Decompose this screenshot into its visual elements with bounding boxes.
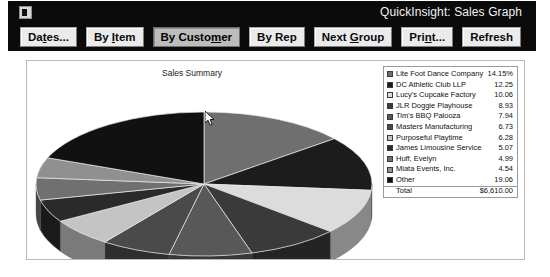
- legend-total-row: Total$6,610.00: [384, 186, 517, 197]
- legend-value: 19.06: [494, 175, 514, 186]
- legend-value: 6.28: [498, 133, 514, 144]
- toolbar-button-by-rep[interactable]: By Rep: [249, 27, 305, 47]
- quickinsight-window: QuickInsight: Sales Graph Dates...By Ite…: [0, 0, 550, 277]
- toolbar: Dates...By ItemBy CustomerBy RepNext Gro…: [8, 23, 536, 51]
- legend-swatch-icon: [387, 177, 393, 183]
- legend-value: 8.93: [498, 101, 514, 112]
- legend-swatch-icon: [387, 103, 393, 109]
- toolbar-button-label: By Item: [94, 31, 136, 43]
- toolbar-button-refresh[interactable]: Refresh: [462, 27, 521, 47]
- legend-swatch-icon: [387, 71, 393, 77]
- legend-row: Lucy's Cupcake Factory10.06: [384, 90, 517, 101]
- legend-label: DC Athletic Club LLP: [396, 80, 494, 91]
- chart-title: Sales Summary: [27, 68, 357, 78]
- legend-swatch-icon: [387, 124, 393, 130]
- chart-legend: Lite Foot Dance Company14.15%DC Athletic…: [383, 66, 518, 198]
- legend-swatch-icon: [387, 135, 393, 141]
- legend-value: 12.25: [494, 80, 514, 91]
- toolbar-button-label: Dates...: [28, 31, 69, 43]
- legend-swatch-icon: [387, 82, 393, 88]
- legend-value: 4.54: [498, 164, 514, 175]
- toolbar-button-label: By Rep: [257, 31, 297, 43]
- legend-label: Miata Events, Inc.: [396, 164, 498, 175]
- legend-swatch-icon: [387, 167, 393, 173]
- toolbar-button-next-group[interactable]: Next Group: [314, 27, 393, 47]
- legend-value: 4.99: [498, 154, 514, 165]
- legend-label: Huff, Evelyn: [396, 154, 498, 165]
- legend-label: Lucy's Cupcake Factory: [396, 90, 494, 101]
- legend-swatch-icon: [387, 114, 393, 120]
- toolbar-button-by-item[interactable]: By Item: [86, 27, 144, 47]
- legend-row: Tim's BBQ Palooza7.94: [384, 111, 517, 122]
- pie-chart-svg: [31, 89, 377, 260]
- toolbar-button-label: Refresh: [470, 31, 513, 43]
- toolbar-button-by-customer[interactable]: By Customer: [153, 27, 241, 47]
- legend-row: Purposeful Playtime6.28: [384, 133, 517, 144]
- legend-row: Lite Foot Dance Company14.15%: [384, 69, 517, 80]
- toolbar-button-dates[interactable]: Dates...: [20, 27, 77, 47]
- legend-label: Lite Foot Dance Company: [396, 69, 488, 80]
- legend-value: 7.94: [498, 111, 514, 122]
- legend-label: Masters Manufacturing: [396, 122, 498, 133]
- legend-value: 5.07: [498, 143, 514, 154]
- legend-total-label: Total: [387, 186, 480, 197]
- window-title: QuickInsight: Sales Graph: [380, 5, 522, 19]
- legend-label: Other: [396, 175, 494, 186]
- legend-value: 6.73: [498, 122, 514, 133]
- legend-swatch-icon: [387, 156, 393, 162]
- legend-value: 10.06: [494, 90, 514, 101]
- toolbar-button-label: Print...: [409, 31, 445, 43]
- legend-total-value: $6,610.00: [480, 186, 514, 197]
- window-icon[interactable]: [19, 6, 32, 19]
- legend-swatch-icon: [387, 145, 393, 151]
- legend-label: Purposeful Playtime: [396, 133, 498, 144]
- legend-swatch-icon: [387, 92, 393, 98]
- legend-value: 14.15%: [488, 69, 514, 80]
- legend-row: Masters Manufacturing6.73: [384, 122, 517, 133]
- pie-chart[interactable]: [31, 89, 377, 260]
- legend-label: Tim's BBQ Palooza: [396, 111, 498, 122]
- legend-row: James Limousine Service5.07: [384, 143, 517, 154]
- toolbar-button-label: Next Group: [322, 31, 385, 43]
- legend-row: Miata Events, Inc.4.54: [384, 164, 517, 175]
- legend-row: JLR Doggie Playhouse8.93: [384, 101, 517, 112]
- legend-row: Other19.06: [384, 175, 517, 186]
- legend-row: DC Athletic Club LLP12.25: [384, 80, 517, 91]
- toolbar-button-label: By Customer: [161, 31, 233, 43]
- legend-row: Huff, Evelyn4.99: [384, 154, 517, 165]
- toolbar-button-print[interactable]: Print...: [401, 27, 453, 47]
- legend-label: JLR Doggie Playhouse: [396, 101, 498, 112]
- title-bar: QuickInsight: Sales Graph: [8, 1, 536, 23]
- legend-label: James Limousine Service: [396, 143, 498, 154]
- chart-panel: Sales Summary Lite Foot Dance Company14.…: [26, 60, 525, 260]
